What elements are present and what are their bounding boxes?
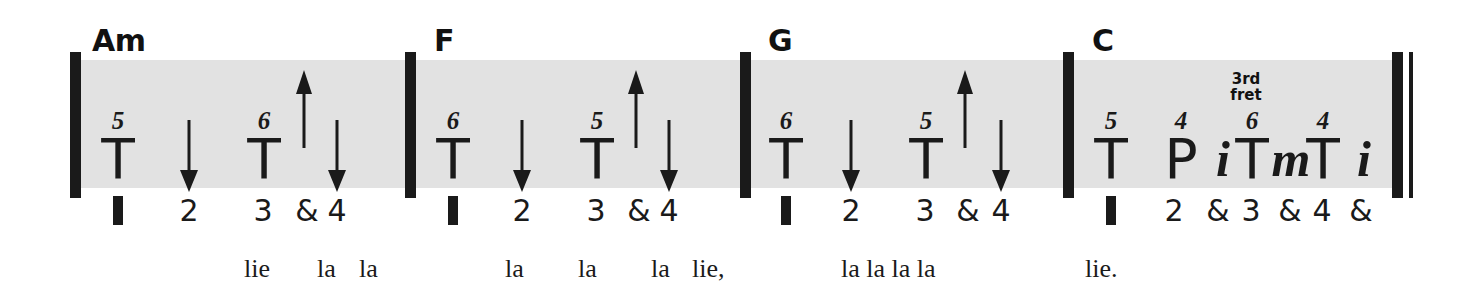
beat-m3-1 bbox=[769, 196, 803, 225]
beat-m4-and1: & bbox=[1201, 196, 1235, 226]
strum-symbol-m4-2: 4 P bbox=[1158, 108, 1204, 184]
thumb-strum-glyph: T bbox=[1088, 132, 1134, 184]
lyric-m1-3: la bbox=[359, 256, 378, 282]
beat-m2-4: 4 bbox=[652, 196, 686, 226]
chord-label-c: C bbox=[1092, 26, 1114, 56]
chord-label-f: F bbox=[434, 26, 454, 56]
barline-2 bbox=[740, 52, 751, 198]
strum-chart: Am F G C 5 T 6 T 2 3 & 4 lie la la 6 T 5… bbox=[0, 0, 1484, 308]
arrow-stem bbox=[521, 120, 524, 172]
lyric-m1-2: la bbox=[317, 256, 336, 282]
arrow-stem bbox=[303, 90, 306, 148]
beat-m1-2: 2 bbox=[172, 196, 206, 226]
strum-symbol-m3-2: 5 T bbox=[903, 108, 949, 184]
thumb-strum-glyph: T bbox=[95, 132, 141, 184]
arrow-head bbox=[842, 170, 860, 192]
arrow-stem bbox=[635, 90, 638, 148]
beat-m2-and: & bbox=[622, 196, 656, 226]
beat-m2-3: 3 bbox=[579, 196, 613, 226]
arrow-stem bbox=[850, 120, 853, 172]
arrow-head bbox=[992, 170, 1010, 192]
strum-arrow-down-m2-2 bbox=[658, 120, 680, 192]
arrow-stem bbox=[668, 120, 671, 172]
barline-start bbox=[70, 52, 81, 198]
strum-symbol-m2-2: 5 T bbox=[574, 108, 620, 184]
strum-symbol-m4-6: 4 T bbox=[1300, 108, 1346, 184]
barline-end-thin bbox=[1409, 52, 1413, 198]
strum-arrow-down-m3-1 bbox=[840, 120, 862, 192]
lyric-m3-1: la la la la bbox=[841, 256, 936, 282]
beat-m2-2: 2 bbox=[505, 196, 539, 226]
lyric-m1-1: lie bbox=[244, 256, 270, 282]
beat-m4-4: 4 bbox=[1305, 196, 1339, 226]
strum-arrow-down-m1-2 bbox=[326, 120, 348, 192]
pluck-finger-glyph: i bbox=[1344, 134, 1384, 186]
strum-symbol-m1-1: 5 T bbox=[95, 108, 141, 184]
strum-symbol-m4-1: 5 T bbox=[1088, 108, 1134, 184]
beat-m4-1 bbox=[1094, 196, 1128, 225]
beat-m3-4: 4 bbox=[984, 196, 1018, 226]
barline-3 bbox=[1063, 52, 1074, 198]
lyric-m2-2: la bbox=[578, 256, 597, 282]
pluck-finger-glyph: P bbox=[1158, 132, 1204, 184]
strum-symbol-m1-2: 6 T bbox=[241, 108, 287, 184]
arrow-head bbox=[660, 170, 678, 192]
fret-position-label: 3rd fret bbox=[1216, 72, 1276, 104]
thumb-strum-glyph: T bbox=[574, 132, 620, 184]
beat-m1-4: 4 bbox=[320, 196, 354, 226]
strum-arrow-up-m1 bbox=[294, 70, 314, 148]
lyric-m2-3: la bbox=[651, 256, 670, 282]
thumb-strum-glyph: T bbox=[241, 132, 287, 184]
strum-symbol-m4-4: 6 T bbox=[1229, 108, 1275, 184]
chord-label-g: G bbox=[768, 26, 792, 56]
beat-m1-and: & bbox=[290, 196, 324, 226]
arrow-head bbox=[180, 170, 198, 192]
strum-arrow-up-m3 bbox=[955, 70, 975, 148]
beat-m4-2: 2 bbox=[1157, 196, 1191, 226]
chord-label-am: Am bbox=[92, 26, 145, 56]
fret-position-line2: fret bbox=[1230, 86, 1261, 104]
beat-m4-and3: & bbox=[1344, 196, 1378, 226]
arrow-stem bbox=[964, 90, 967, 148]
strum-arrow-down-m3-2 bbox=[990, 120, 1012, 192]
arrow-stem bbox=[1000, 120, 1003, 172]
arrow-stem bbox=[336, 120, 339, 172]
arrow-head bbox=[328, 170, 346, 192]
lyric-m4-1: lie. bbox=[1085, 256, 1118, 282]
strum-arrow-up-m2 bbox=[626, 70, 646, 148]
beat-m3-2: 2 bbox=[834, 196, 868, 226]
strum-arrow-down-m1-1 bbox=[178, 120, 200, 192]
lyric-m2-1: la bbox=[505, 256, 524, 282]
thumb-strum-glyph: T bbox=[903, 132, 949, 184]
lyric-m2-4: lie, bbox=[692, 256, 725, 282]
barline-1 bbox=[405, 52, 416, 198]
beat-m1-3: 3 bbox=[246, 196, 280, 226]
thumb-strum-glyph: T bbox=[430, 132, 476, 184]
beat-m3-3: 3 bbox=[908, 196, 942, 226]
arrow-stem bbox=[188, 120, 191, 172]
beat-m4-and2: & bbox=[1273, 196, 1307, 226]
strum-symbol-m3-1: 6 T bbox=[763, 108, 809, 184]
barline-end-thick bbox=[1392, 52, 1403, 198]
beat-m1-1 bbox=[101, 196, 135, 225]
thumb-strum-glyph: T bbox=[763, 132, 809, 184]
beat-m3-and: & bbox=[951, 196, 985, 226]
thumb-strum-glyph: T bbox=[1300, 132, 1346, 184]
beat-m2-1 bbox=[436, 196, 470, 225]
strum-symbol-m4-7: i bbox=[1344, 134, 1384, 186]
strum-arrow-down-m2-1 bbox=[511, 120, 533, 192]
thumb-strum-glyph: T bbox=[1229, 132, 1275, 184]
beat-m4-3: 3 bbox=[1234, 196, 1268, 226]
strum-symbol-m2-1: 6 T bbox=[430, 108, 476, 184]
arrow-head bbox=[513, 170, 531, 192]
